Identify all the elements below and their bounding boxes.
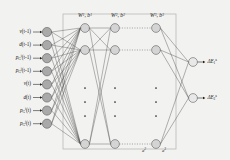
- edge-hidden3-output: [160, 50, 188, 62]
- enclosing-frame: [63, 14, 176, 149]
- output-arrow-head: [203, 61, 205, 64]
- layer2-weights-label: W2, b2: [111, 13, 125, 19]
- edge-hidden3-output: [160, 98, 188, 144]
- input-node: [42, 54, 51, 63]
- input-node: [42, 67, 51, 76]
- hidden-node: [111, 140, 120, 149]
- input-node: [42, 119, 51, 128]
- hidden-node: [81, 140, 90, 149]
- input-node: [42, 27, 51, 36]
- output-arrow-head: [203, 97, 205, 100]
- layer1-weights-label: W1, b1: [78, 13, 92, 19]
- network-edges: [52, 28, 189, 144]
- ellipsis-dot: [84, 101, 86, 103]
- activation-label-a3: a3: [162, 148, 166, 153]
- ellipsis-dot: [155, 101, 157, 103]
- input-arrow-head: [40, 44, 42, 47]
- hidden-node: [152, 46, 161, 55]
- hidden-node: [81, 24, 90, 33]
- network-canvas: [0, 0, 230, 160]
- input-label: pGi(t-1): [16, 55, 31, 61]
- network-frame: [63, 14, 176, 149]
- edge-input-hidden1: [52, 28, 81, 58]
- hidden-node: [111, 46, 120, 55]
- edge-input-hidden1: [52, 28, 81, 111]
- input-arrow-head: [40, 83, 42, 86]
- ellipsis-dot: [114, 87, 116, 89]
- input-arrow-head: [40, 31, 42, 34]
- ellipsis-dot: [84, 87, 86, 89]
- hidden-node: [81, 46, 90, 55]
- input-label: d(t): [24, 95, 32, 100]
- ellipsis-dot: [155, 115, 157, 117]
- input-label: v(t): [24, 82, 31, 87]
- edge-input-hidden1: [52, 45, 81, 144]
- output-label: ΔE2a: [207, 95, 217, 101]
- edge-input-hidden1: [52, 84, 81, 144]
- activation-label-a2: a2: [142, 148, 146, 153]
- layer3-weights-label: W3, b3: [150, 13, 164, 19]
- input-label: pGj(t): [20, 121, 31, 127]
- input-node: [42, 41, 51, 50]
- hidden-node: [152, 24, 161, 33]
- io-arrows: [33, 31, 205, 125]
- edge-input-hidden1: [52, 28, 81, 32]
- edge-hidden3-output: [160, 28, 188, 98]
- input-arrow-head: [40, 57, 42, 60]
- input-arrow-head: [40, 96, 42, 99]
- input-node: [42, 93, 51, 102]
- input-node: [42, 80, 51, 89]
- input-arrow-head: [40, 122, 42, 125]
- output-node: [189, 94, 198, 103]
- output-node: [189, 58, 198, 67]
- edge-input-hidden1: [52, 50, 81, 84]
- ellipsis-dot: [114, 115, 116, 117]
- input-label: d(t-1): [19, 42, 31, 47]
- output-label: ΔE1a: [207, 59, 217, 65]
- ellipsis-dot: [114, 101, 116, 103]
- input-label: pGj(t-1): [16, 68, 31, 74]
- edge-input-hidden1: [52, 98, 81, 145]
- neural-network-diagram: v(t-1)d(t-1)pGi(t-1)pGj(t-1)v(t)d(t)pGi(…: [0, 0, 230, 160]
- ellipsis-dot: [84, 115, 86, 117]
- hidden-node: [111, 24, 120, 33]
- input-arrow-head: [40, 70, 42, 73]
- hidden-node: [152, 140, 161, 149]
- input-node: [42, 106, 51, 115]
- edge-input-hidden1: [52, 71, 81, 144]
- ellipsis-dot: [155, 87, 157, 89]
- input-arrow-head: [40, 109, 42, 112]
- input-label: v(t-1): [19, 29, 31, 34]
- input-label: pGi(t): [20, 108, 31, 114]
